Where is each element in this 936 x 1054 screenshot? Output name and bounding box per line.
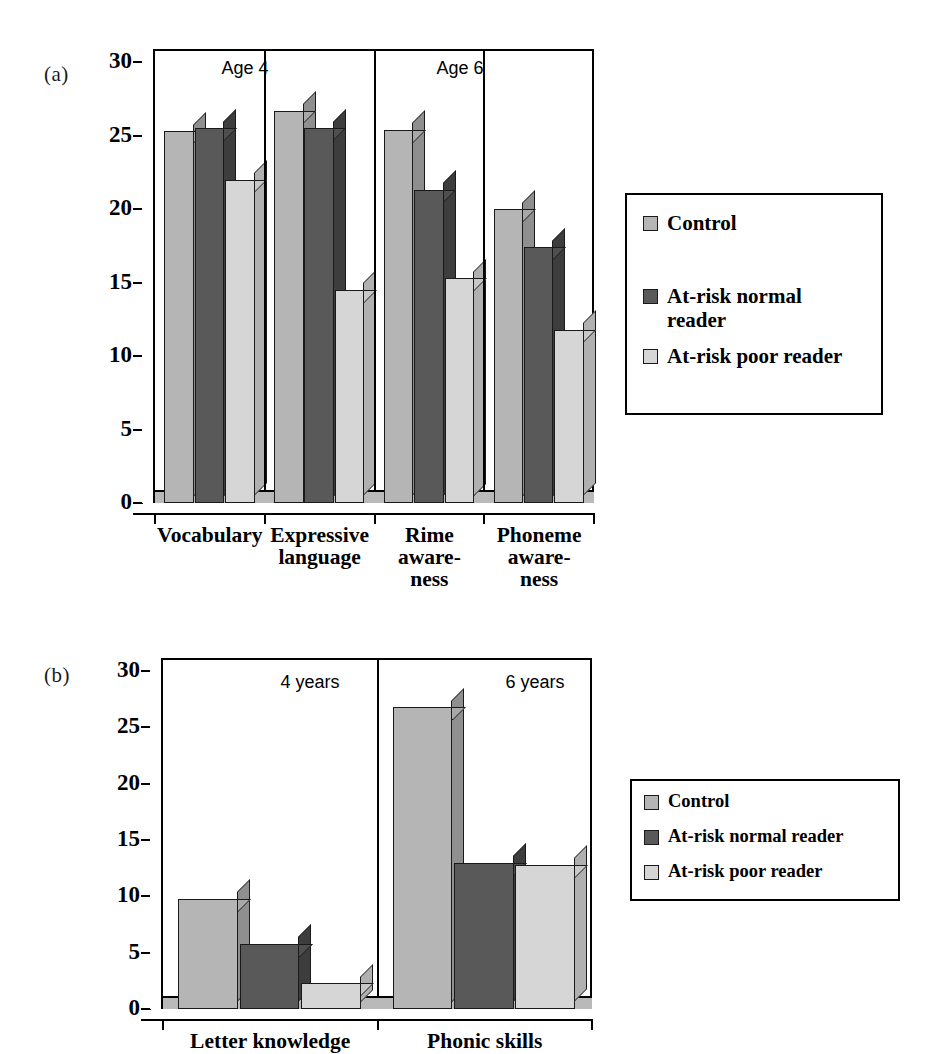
panel-a-xtick-mark	[374, 513, 376, 524]
panel-b-bar-face	[301, 983, 361, 1009]
panel-a-bar-face	[164, 131, 193, 503]
panel-b-xcat-label: Phonic skills	[343, 1031, 626, 1053]
panel-b-ytick-label: 10	[88, 883, 140, 906]
panel-b-ytick-label: 20	[88, 771, 140, 794]
panel-b-group-divider	[377, 658, 379, 998]
panel-b-ytick-label: 0	[88, 996, 140, 1019]
panel-a-legend-entry: At-risk normal reader	[643, 285, 865, 332]
panel-b-group-annotation: 4 years	[255, 672, 365, 693]
panel-b-legend-label: Control	[668, 791, 729, 812]
legend-swatch-at_risk_normal	[644, 830, 659, 845]
panel-a-bar-at_risk_poor	[445, 265, 487, 503]
panel-a-ytick-label: 5	[80, 417, 132, 440]
panel-a-xtick-mark	[593, 513, 595, 524]
panel-a-bar-face	[274, 111, 303, 503]
panel-b-ytick-label: 25	[88, 714, 140, 737]
panel-a-left-wall	[142, 49, 155, 503]
panel-b-ytick-label: 30	[88, 658, 140, 681]
panel-b-xtick-mark	[377, 1019, 379, 1030]
panel-b-xtick-mark	[162, 1019, 164, 1030]
panel-b-left-wall	[150, 658, 163, 1009]
panel-a-letter: (a)	[44, 62, 69, 87]
panel-b-legend-entry: Control	[644, 791, 886, 812]
panel-a-xtick-mark	[264, 513, 266, 524]
panel-a-bar-face	[494, 209, 523, 503]
panel-a-group-annotation: Age 6	[405, 58, 515, 79]
panel-b-legend-label: At-risk normal reader	[668, 826, 843, 847]
panel-a-ytick-label: 10	[80, 343, 132, 366]
panel-a-legend-entry: At-risk poor reader	[643, 345, 865, 369]
panel-b-bar-face	[515, 865, 575, 1009]
panel-b-legend-entry: At-risk poor reader	[644, 861, 886, 882]
panel-a-bar-face	[195, 128, 224, 503]
panel-b-legend-entry: At-risk normal reader	[644, 826, 886, 847]
panel-b-bar-at_risk_poor	[515, 852, 588, 1009]
panel-b-bar-at_risk_poor	[301, 970, 374, 1009]
legend-swatch-at_risk_poor	[644, 865, 659, 880]
panel-a-bar-at_risk_poor	[554, 317, 596, 503]
panel-a-ytick-label: 0	[80, 490, 132, 513]
panel-a-ytick-label: 20	[80, 196, 132, 219]
panel-a-xtick-mark	[483, 513, 485, 524]
panel-a-legend-label: Control	[667, 212, 737, 236]
panel-b-x-axis-line	[141, 1019, 592, 1021]
panel-a-bar-face	[554, 330, 583, 503]
panel-a-ytick-label: 25	[80, 123, 132, 146]
panel-b-group-annotation: 6 years	[480, 672, 590, 693]
panel-b-bar-face	[240, 944, 300, 1009]
panel-a-group-divider	[264, 49, 266, 492]
legend-swatch-at_risk_poor	[643, 349, 658, 364]
panel-a-legend-label: At-risk normal reader	[667, 285, 802, 332]
panel-a-group-divider	[374, 49, 376, 492]
panel-a-legend-label: At-risk poor reader	[667, 345, 842, 369]
panel-a-x-axis-line	[133, 513, 594, 515]
panel-a-bar-face	[414, 190, 443, 503]
panel-b-ytick-label: 15	[88, 827, 140, 850]
panel-b-ytick-label: 5	[88, 940, 140, 963]
panel-b-xtick-mark	[591, 1019, 593, 1030]
panel-a-bar-face	[524, 247, 553, 503]
legend-swatch-at_risk_normal	[643, 289, 658, 304]
panel-a-bar-face	[225, 180, 254, 503]
panel-a-xtick-mark	[154, 513, 156, 524]
panel-b-bar-face	[393, 707, 453, 1009]
panel-a-group-divider	[483, 49, 485, 492]
panel-a-ytick-label: 15	[80, 270, 132, 293]
panel-b-legend-label: At-risk poor reader	[668, 861, 823, 882]
panel-a-ytick-label: 30	[80, 49, 132, 72]
panel-a-legend-entry: Control	[643, 212, 865, 236]
panel-b-bar-face	[178, 899, 238, 1009]
legend-swatch-control	[644, 795, 659, 810]
panel-a-bar-at_risk_poor	[335, 277, 377, 503]
panel-a-xcat-label: Phoneme aware- ness	[467, 525, 612, 591]
panel-a-bar-face	[335, 290, 364, 503]
legend-swatch-control	[643, 216, 658, 231]
panel-a-bar-face	[445, 278, 474, 503]
panel-a-bar-at_risk_poor	[225, 167, 267, 503]
panel-a-bar-face	[384, 130, 413, 503]
panel-a-bar-face	[304, 128, 333, 503]
panel-a-group-annotation: Age 4	[190, 58, 300, 79]
panel-b-letter: (b)	[44, 663, 70, 688]
panel-b-bar-face	[454, 863, 514, 1009]
